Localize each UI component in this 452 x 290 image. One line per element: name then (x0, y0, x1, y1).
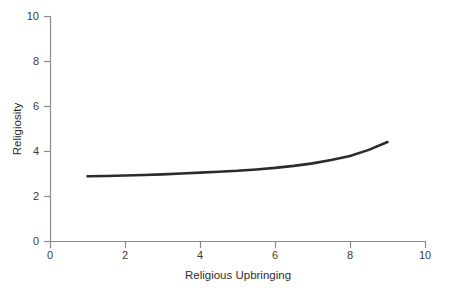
y-tick-label-8: 8 (33, 55, 39, 67)
x-tick-label-8: 8 (347, 249, 353, 261)
x-tick-label-10: 10 (419, 249, 431, 261)
x-tick-label-6: 6 (272, 249, 278, 261)
y-tick-label-2: 2 (33, 190, 39, 202)
y-tick-label-0: 0 (33, 235, 39, 247)
x-tick-label-4: 4 (197, 249, 203, 261)
x-tick-label-0: 0 (47, 249, 53, 261)
y-tick-label-4: 4 (33, 145, 39, 157)
line-chart: 0 2 4 6 8 10 0 2 4 6 8 10 Religious Upbr… (0, 0, 452, 290)
chart-screenshot: 0 2 4 6 8 10 0 2 4 6 8 10 Religious Upbr… (0, 0, 452, 290)
x-tick-label-2: 2 (122, 249, 128, 261)
y-tick-label-6: 6 (33, 100, 39, 112)
y-axis-title: Religiosity (11, 103, 23, 156)
chart-background (0, 0, 452, 290)
y-tick-label-10: 10 (27, 10, 39, 22)
x-axis-title: Religious Upbringing (185, 269, 291, 281)
